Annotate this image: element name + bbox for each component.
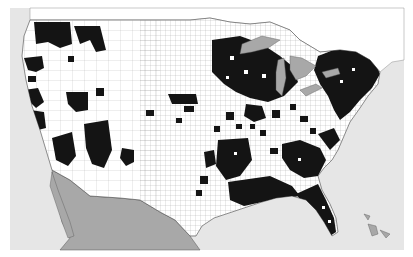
map-frame [0,0,413,257]
us-county-map [0,0,413,257]
